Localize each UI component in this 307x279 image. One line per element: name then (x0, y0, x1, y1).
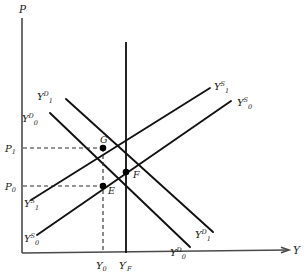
point-marker-e (100, 183, 107, 190)
output-tick-labels: Y0 Y′F (96, 260, 132, 274)
curve-label-demand1-left: YD1 (37, 90, 53, 104)
point-marker-f (123, 169, 130, 176)
axis-label-y: Y (293, 244, 301, 256)
curve-label-demand0-right: YD0 (170, 246, 186, 260)
supply-curve-labels-left: YS1 YS0 (24, 197, 39, 246)
axis-label-p: P (18, 3, 27, 15)
output-label-yf: Y′F (119, 260, 132, 274)
price-label-p0: P0 (4, 181, 16, 194)
curve-label-demand1-right: YD1 (195, 228, 211, 242)
horizontal-axis-y (22, 250, 288, 253)
point-label-g: G (100, 134, 108, 145)
curve-label-supply1-left: YS1 (24, 197, 39, 211)
point-label-f: F (132, 169, 140, 180)
demand-curve-0 (50, 113, 190, 247)
curve-label-demand0-left: YD0 (22, 112, 38, 126)
price-label-p1: P1 (4, 143, 16, 156)
demand-curve-1 (66, 99, 213, 232)
point-label-e: E (107, 185, 115, 196)
demand-curve-labels-left: YD1 YD0 (22, 90, 53, 126)
supply-curve-1 (31, 88, 210, 200)
supply-curve-0 (37, 101, 231, 235)
output-label-y0: Y0 (96, 260, 107, 273)
price-tick-labels: P1 P0 (4, 143, 16, 194)
supply-demand-diagram: P Y P1 P0 Y0 Y′F YD1 YD0 YD1 YD0 (0, 0, 307, 279)
curve-label-supply0-right: YS0 (237, 96, 252, 110)
curve-label-supply1-right: YS1 (214, 80, 229, 94)
supply-curve-labels-right: YS1 YS0 (214, 80, 252, 110)
point-marker-g (100, 145, 107, 152)
